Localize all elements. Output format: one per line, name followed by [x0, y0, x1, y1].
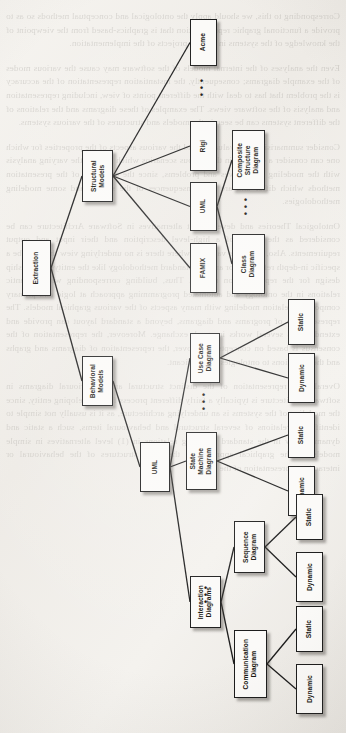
node-classd: ClassDiagram — [232, 234, 265, 294]
node-label: StateMachineDiagram — [189, 448, 214, 475]
node-label-line: Static — [305, 508, 313, 526]
node-label-line: Models — [98, 160, 106, 192]
node-label: SequenceDiagram — [241, 531, 257, 563]
node-label-line: Sequence — [241, 531, 249, 563]
edge-ucd-to-ucd-dyn — [220, 358, 288, 378]
edge-structural-to-uml-s — [113, 176, 190, 207]
node-label: Static — [297, 426, 305, 444]
node-label-line: Dynamic — [305, 675, 313, 703]
edge-intd-to-commd — [221, 602, 234, 664]
extraction-taxonomy-diagram: ExtractionStructuralModelsBehavioralMode… — [0, 0, 346, 733]
node-seqd: SequenceDiagram — [234, 521, 265, 573]
node-label: Extraction — [32, 252, 40, 285]
ellipsis-ell-uml-struct-diags: ••• — [244, 197, 247, 218]
edge-smd-to-smd-dyn — [217, 461, 288, 491]
node-label: ClassDiagram — [240, 251, 256, 278]
node-label: BehavioralModels — [89, 364, 105, 398]
node-extraction: Extraction — [22, 240, 51, 296]
node-ucd-static: Static — [288, 299, 315, 345]
node-label: Static — [297, 313, 305, 331]
node-label-line: UML — [199, 199, 207, 213]
edge-seqd-to-seq-dyn — [265, 547, 296, 577]
node-label-line: Machine — [197, 448, 205, 475]
edge-structural-to-famix — [113, 176, 190, 268]
node-label: FAMIX — [199, 258, 207, 278]
node-structural: StructuralModels — [82, 150, 113, 202]
node-label-line: Structural — [89, 160, 97, 192]
edge-uml-s-to-csd — [217, 160, 232, 207]
node-label: CompositeStructureDiagram — [236, 143, 261, 178]
edge-structural-to-acme — [113, 43, 190, 177]
node-label: StructuralModels — [89, 160, 105, 192]
edge-structural-to-rigi — [113, 146, 190, 176]
node-label-line: Diagram — [249, 251, 257, 278]
node-label-line: Diagram — [205, 343, 213, 373]
node-label-line: Diagram — [206, 448, 214, 475]
node-behavioral: BehavioralModels — [82, 356, 113, 406]
edge-uml-b-to-smd — [170, 461, 186, 467]
node-rigi: Rigi — [190, 121, 217, 171]
edge-smd-to-smd-static — [217, 435, 288, 461]
node-label-line: Acme — [199, 33, 207, 51]
node-label: Use CaseDiagram — [197, 343, 213, 373]
edge-extraction-to-behavioral — [51, 268, 82, 381]
node-label: Static — [305, 620, 313, 638]
edge-ucd-to-ucd-static — [220, 322, 288, 358]
node-label-line: Extraction — [32, 252, 40, 285]
node-comm-dyn: Dynamic — [296, 664, 323, 714]
node-label-line: Dynamic — [305, 563, 313, 591]
edge-uml-s-to-classd — [217, 207, 232, 265]
edge-extraction-to-structural — [51, 176, 82, 268]
node-comm-static: Static — [296, 606, 323, 652]
node-ucd-dyn: Dynamic — [288, 353, 315, 403]
ellipsis-ell-structural-models: ••• — [200, 78, 203, 99]
node-smd-static: Static — [288, 412, 315, 458]
node-label-line: Static — [297, 426, 305, 444]
node-uml-b: UML — [140, 442, 170, 492]
node-label-line: Use Case — [197, 343, 205, 373]
node-label-line: Diagram — [251, 639, 259, 689]
node-label-line: Diagram — [250, 531, 258, 563]
node-seq-dyn: Dynamic — [296, 552, 323, 602]
node-acme: Acme — [190, 19, 217, 66]
node-label: Dynamic — [305, 563, 313, 591]
node-label: Acme — [199, 33, 207, 51]
node-label: Dynamic — [297, 364, 305, 392]
node-label: UML — [199, 199, 207, 213]
edge-behavioral-to-uml-b — [113, 381, 140, 467]
node-label: UML — [151, 460, 159, 474]
edge-commd-to-comm-static — [267, 629, 296, 664]
node-label-line: Static — [297, 313, 305, 331]
node-label-line: UML — [151, 460, 159, 474]
node-label-line: Static — [305, 620, 313, 638]
node-label: Rigi — [199, 140, 207, 153]
node-commd: CommunicationDiagram — [234, 630, 267, 698]
node-label: Static — [305, 508, 313, 526]
node-smd: StateMachineDiagram — [186, 432, 217, 490]
node-label-line: Structure — [244, 143, 252, 178]
node-famix: FAMIX — [190, 243, 217, 293]
node-ucd: Use CaseDiagram — [190, 333, 220, 383]
node-label-line: FAMIX — [199, 258, 207, 278]
ellipsis-ell-uml-behav-diags: ••• — [202, 392, 205, 413]
node-label-line: Dynamic — [297, 364, 305, 392]
node-label: Dynamic — [305, 675, 313, 703]
node-label-line: Composite — [236, 143, 244, 178]
node-uml-s: UML — [190, 182, 217, 231]
node-label-line: Rigi — [199, 140, 207, 153]
node-label: CommunicationDiagram — [242, 639, 258, 689]
node-label-line: State — [189, 448, 197, 475]
node-label-line: Models — [98, 364, 106, 398]
node-label-line: Class — [240, 251, 248, 278]
node-label-line: Diagram — [253, 143, 261, 178]
node-seq-static: Static — [296, 494, 323, 540]
edge-seqd-to-seq-static — [265, 517, 296, 547]
edge-commd-to-comm-dyn — [267, 664, 296, 689]
edge-intd-to-seqd — [221, 547, 234, 602]
node-csd: CompositeStructureDiagram — [232, 130, 265, 190]
ellipsis-ell-interaction-diags: ••• — [204, 585, 207, 606]
